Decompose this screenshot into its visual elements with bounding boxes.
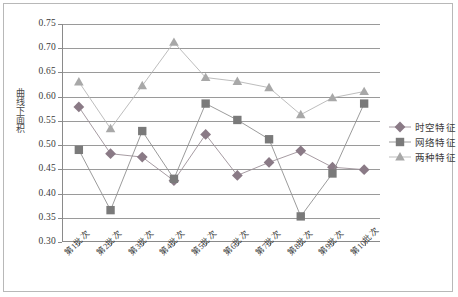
legend-label: 网络特征	[412, 135, 456, 149]
y-tick-label: 0.40	[16, 189, 56, 199]
legend-marker-triangle-icon	[388, 151, 412, 163]
y-tick-label: 0.55	[16, 116, 56, 126]
series-3	[74, 37, 369, 132]
data-point	[327, 162, 338, 173]
y-tick-label: 0.35	[16, 213, 56, 223]
legend-label: 两种特征	[412, 150, 456, 164]
legend-item[interactable]: 时空特征	[388, 119, 454, 134]
chart-legend: 时空特征网络特征两种特征	[388, 119, 454, 164]
data-point	[295, 145, 306, 156]
gridline	[63, 194, 380, 195]
data-point	[138, 127, 146, 135]
legend-label: 时空特征	[412, 120, 456, 134]
data-point	[264, 157, 275, 168]
series-1	[73, 102, 369, 187]
gridline	[63, 145, 380, 146]
gridline	[63, 169, 380, 170]
data-point	[328, 169, 336, 177]
data-point	[201, 99, 209, 107]
data-point	[264, 83, 274, 91]
series-layer	[63, 24, 380, 241]
gridline	[63, 72, 380, 73]
data-point	[169, 37, 179, 45]
data-point	[200, 129, 211, 140]
plot-area	[62, 24, 380, 242]
gridline	[63, 121, 380, 122]
legend-marker-diamond-icon	[388, 121, 412, 133]
y-tick-label: 0.70	[16, 43, 56, 53]
data-point	[297, 212, 305, 220]
legend-marker-square-icon	[388, 136, 412, 148]
y-tick-label: 0.45	[16, 164, 56, 174]
data-point	[105, 148, 116, 159]
data-point	[360, 99, 368, 107]
gridline	[63, 24, 380, 25]
data-point	[201, 73, 211, 81]
gridline	[63, 97, 380, 98]
gridline	[63, 48, 380, 49]
data-point	[169, 175, 180, 186]
series-line	[79, 42, 364, 128]
y-tick-label: 0.50	[16, 140, 56, 150]
y-tick-label: 0.60	[16, 92, 56, 102]
y-tick-label: 0.65	[16, 67, 56, 77]
data-point	[359, 87, 369, 95]
data-point	[137, 152, 148, 163]
data-point	[73, 102, 84, 113]
y-tick-mark	[58, 242, 62, 243]
data-point	[233, 77, 243, 85]
legend-item[interactable]: 两种特征	[388, 149, 454, 164]
data-point	[106, 124, 116, 132]
data-point	[74, 77, 84, 85]
legend-item[interactable]: 网络特征	[388, 134, 454, 149]
data-point	[265, 135, 273, 143]
data-point	[170, 175, 178, 183]
gridline	[63, 218, 380, 219]
data-point	[232, 170, 243, 181]
data-point	[296, 110, 306, 118]
y-tick-label: 0.75	[16, 19, 56, 29]
chart-container: 曲线下面积 0.750.700.650.600.550.500.450.400.…	[0, 0, 458, 297]
data-point	[75, 146, 83, 154]
y-tick-label: 0.30	[16, 237, 56, 247]
series-2	[75, 99, 369, 220]
data-point	[106, 206, 114, 214]
data-point	[137, 81, 147, 89]
